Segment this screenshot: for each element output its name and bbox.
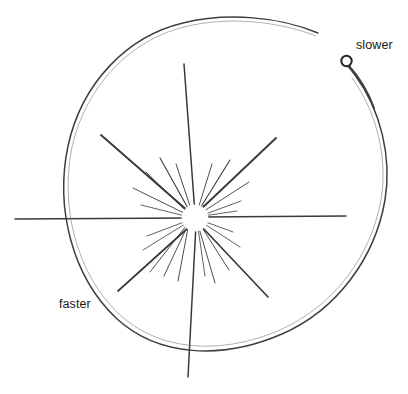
radius-vector-ll-5 [147, 222, 184, 236]
radius-vector-left [15, 218, 190, 219]
label-faster: faster [59, 297, 91, 311]
orbit-diagram: slower faster [0, 0, 408, 394]
radius-vector-ur-1 [198, 164, 212, 209]
radius-vector-nw-long [101, 135, 188, 211]
radius-vector-group [15, 64, 346, 377]
radius-vector-up [184, 64, 195, 214]
radius-vector-sw-long [118, 227, 189, 291]
label-slower: slower [356, 38, 393, 52]
radius-vector-ul-3 [133, 188, 186, 214]
orbiting-body-marker [341, 56, 351, 66]
radius-vector-down [188, 224, 196, 377]
orbit-drawing-canvas [0, 0, 408, 394]
radius-vector-ne-long [199, 138, 276, 211]
radius-vector-right [201, 216, 346, 217]
orbit-ellipse-main-arc [64, 17, 387, 351]
radius-vector-ul-1 [160, 158, 189, 210]
orbit-ellipse-group [64, 17, 387, 351]
radius-vector-se-long [201, 226, 268, 297]
